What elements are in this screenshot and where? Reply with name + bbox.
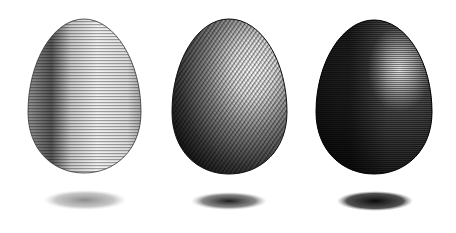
light-egg — [25, 15, 145, 180]
light-egg-shadow — [43, 190, 127, 210]
medium-egg — [168, 15, 293, 180]
eggs-illustration — [0, 0, 456, 233]
dark-egg — [312, 15, 437, 180]
medium-egg-shadow — [191, 192, 267, 210]
dark-egg-shadow — [337, 191, 413, 211]
